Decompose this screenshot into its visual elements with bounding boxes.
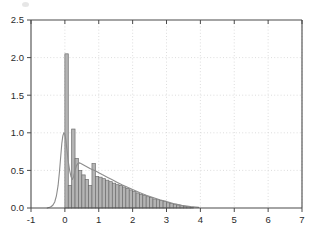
x-tick-label: 1	[96, 214, 101, 225]
y-tick-label: 0.0	[11, 202, 24, 213]
y-tick-label: 1.5	[11, 90, 24, 101]
x-tick-label: 0	[62, 214, 67, 225]
x-tick-label: 7	[299, 214, 304, 225]
y-tick-label: 2.0	[11, 52, 24, 63]
x-tick-label: 4	[198, 214, 203, 225]
histogram-density-chart: -101234567 0.00.51.01.52.02.5	[0, 0, 312, 232]
x-tick-label: 6	[265, 214, 270, 225]
x-tick-label: 2	[130, 214, 135, 225]
scan-artifact	[22, 2, 29, 7]
x-tick-label: 5	[232, 214, 237, 225]
y-tick-label: 1.0	[11, 127, 24, 138]
y-tick-label: 2.5	[11, 14, 24, 25]
x-tick-label: 3	[164, 214, 169, 225]
chart-background	[0, 0, 312, 232]
y-tick-label: 0.5	[11, 165, 24, 176]
figure-container: -101234567 0.00.51.01.52.02.5	[0, 0, 312, 232]
x-tick-label: -1	[27, 214, 35, 225]
